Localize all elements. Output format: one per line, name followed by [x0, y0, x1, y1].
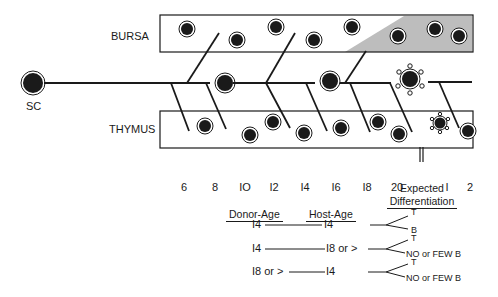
expected-differentiation-header: Expected Differentiation [372, 182, 472, 208]
hatch-break-marker [420, 147, 423, 162]
activated-cell-large [396, 64, 424, 95]
tick-12: I2 [269, 182, 278, 193]
host-age-value: I4 [324, 219, 333, 230]
bursa-label: BURSA [111, 31, 149, 42]
tick-14: I4 [300, 182, 309, 193]
donor-age-value: I8 or > [252, 266, 284, 277]
stem-cell [21, 71, 45, 95]
lower-outcome: NO or FEW B [406, 274, 461, 283]
host-age-value: I4 [326, 266, 335, 277]
activated-cell-small [430, 112, 449, 133]
stem-cell-label: SC [26, 101, 41, 112]
bursa-branches [187, 33, 366, 83]
tick-10: IO [239, 182, 251, 193]
thymus-label: THYMUS [109, 124, 155, 135]
tick-6: 6 [181, 182, 187, 193]
upper-outcome: T [411, 208, 417, 217]
upper-outcome: T [411, 234, 417, 243]
donor-age-value: I4 [252, 243, 261, 254]
tick-18: I8 [362, 182, 371, 193]
upper-outcome: T [411, 258, 417, 267]
host-age-value: I8 or > [326, 243, 358, 254]
tick-16: I6 [331, 182, 340, 193]
donor-age-value: I4 [252, 219, 261, 230]
thymus-branches [171, 82, 459, 132]
tick-8: 8 [212, 182, 218, 193]
